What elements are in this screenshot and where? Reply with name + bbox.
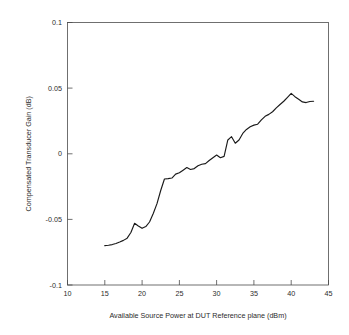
y-tick-label-1: -0.05 [46, 215, 62, 224]
x-tick-label-7: 45 [325, 289, 333, 298]
chart-figure: -0.1 -0.05 0 0.05 0.1 10 15 20 25 30 35 … [0, 0, 349, 335]
x-tick-label-3: 25 [175, 289, 183, 298]
x-axis-ticks [68, 280, 329, 285]
y-axis-ticks [68, 23, 73, 286]
x-tick-label-0: 10 [64, 289, 72, 298]
y-tick-label-0: -0.1 [50, 281, 62, 290]
chart-canvas: -0.1 -0.05 0 0.05 0.1 10 15 20 25 30 35 … [0, 0, 349, 335]
y-axis-title: Compensated Transducer Gain (dB) [24, 96, 33, 211]
x-tick-label-2: 20 [138, 289, 146, 298]
data-series-line [105, 93, 314, 245]
y-tick-label-3: 0.05 [48, 84, 62, 93]
x-tick-label-5: 35 [250, 289, 258, 298]
x-tick-label-1: 15 [101, 289, 109, 298]
x-tick-label-4: 30 [213, 289, 221, 298]
y-tick-label-4: 0.1 [52, 18, 62, 27]
x-axis-title: Available Source Power at DUT Reference … [109, 311, 286, 320]
x-tick-label-6: 40 [287, 289, 295, 298]
y-tick-label-2: 0 [58, 149, 62, 158]
